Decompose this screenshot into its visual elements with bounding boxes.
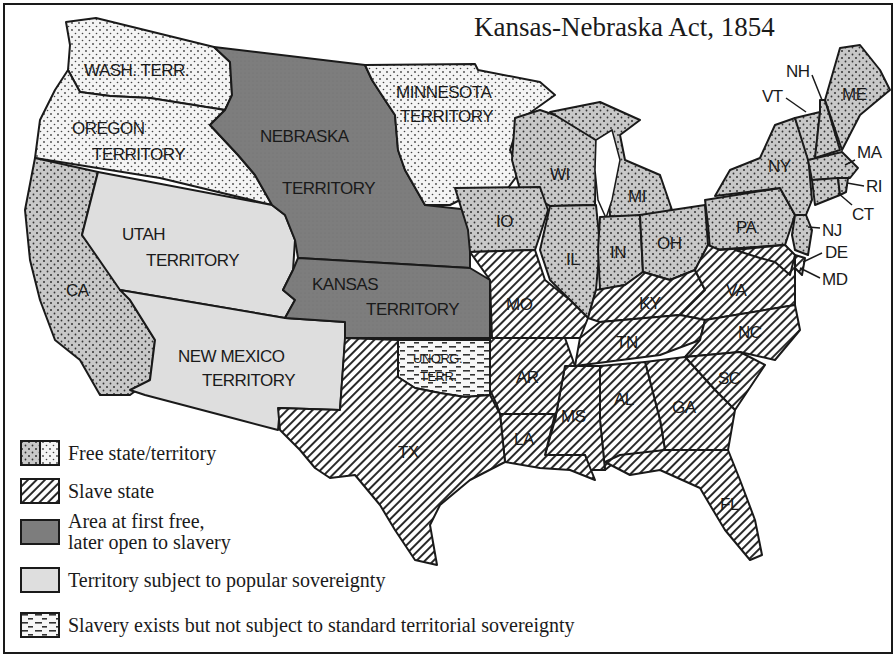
- label-sc: SC: [718, 369, 741, 388]
- label-kansas-line2: TERRITORY: [366, 300, 459, 319]
- label-oregon-line2: TERRITORY: [92, 145, 185, 164]
- map-canvas: WASH. TERR. OREGON TERRITORY NEBRASKA TE…: [0, 0, 896, 657]
- label-oregon-line1: OREGON: [72, 119, 145, 138]
- label-utah-line2: TERRITORY: [146, 251, 239, 270]
- label-new-mexico-line2: TERRITORY: [202, 371, 295, 390]
- label-utah-line1: UTAH: [122, 225, 165, 244]
- label-fl: FL: [720, 495, 739, 514]
- region-delaware: [795, 255, 805, 275]
- legend-label-first-free-line1: Area at first free,: [68, 511, 231, 532]
- popular-sovereignty-swatch-icon: [20, 567, 60, 593]
- label-ma: MA: [857, 143, 883, 162]
- leader-nj: [808, 227, 820, 228]
- label-io: IO: [496, 212, 513, 231]
- legend-label-popular: Territory subject to popular sovereignty: [68, 570, 385, 591]
- label-nh: NH: [786, 62, 810, 81]
- label-ms: MS: [561, 407, 586, 426]
- label-de: DE: [825, 243, 848, 262]
- label-ct: CT: [852, 205, 874, 224]
- label-kansas-line1: KANSAS: [312, 275, 378, 294]
- label-nebraska-line2: TERRITORY: [282, 179, 375, 198]
- label-ny: NY: [768, 157, 791, 176]
- label-il: IL: [566, 250, 579, 269]
- region-connecticut: [812, 178, 840, 205]
- legend-item-free: Free state/territory: [20, 440, 216, 466]
- label-la: LA: [514, 430, 535, 449]
- label-minnesota-line1: MINNESOTA: [396, 83, 492, 102]
- label-va: VA: [726, 281, 748, 300]
- region-rhode-island: [838, 178, 848, 195]
- label-unorg-line2: TERR.: [420, 369, 457, 384]
- label-ky: KY: [639, 294, 661, 313]
- legend-item-first-free: Area at first free, later open to slaver…: [20, 511, 231, 553]
- label-ri: RI: [866, 177, 882, 196]
- label-oh: OH: [657, 234, 682, 253]
- legend-item-popular: Territory subject to popular sovereignty: [20, 567, 385, 593]
- label-ar: AR: [516, 368, 539, 387]
- label-ca: CA: [66, 281, 90, 300]
- label-minnesota-line2: TERRITORY: [400, 107, 493, 126]
- legend-label-free: Free state/territory: [68, 443, 216, 464]
- leader-ct: [838, 193, 852, 205]
- label-mi: MI: [628, 187, 646, 206]
- label-tx: TX: [398, 443, 419, 462]
- label-wi: WI: [550, 165, 570, 184]
- leader-ri: [847, 183, 864, 186]
- label-nj: NJ: [822, 221, 842, 240]
- map-title: Kansas-Nebraska Act, 1854: [474, 12, 775, 43]
- label-nc: NC: [738, 323, 762, 342]
- label-wash-terr: WASH. TERR.: [84, 61, 189, 80]
- free-state-swatch-icon: [20, 440, 60, 466]
- first-free-swatch-icon: [20, 519, 60, 545]
- label-pa: PA: [736, 218, 758, 237]
- label-ga: GA: [672, 398, 697, 417]
- label-mo: MO: [506, 295, 533, 314]
- legend-label-first-free-line2: later open to slavery: [68, 532, 231, 553]
- leader-nh: [812, 75, 822, 100]
- label-nebraska-line1: NEBRASKA: [260, 127, 350, 146]
- label-vt: VT: [762, 87, 783, 106]
- label-new-mexico-line1: NEW MEXICO: [178, 347, 285, 366]
- slave-state-swatch-icon: [20, 478, 60, 504]
- label-al: AL: [614, 390, 634, 409]
- leader-vt: [786, 98, 806, 112]
- legend-label-slave: Slave state: [68, 481, 154, 502]
- label-me: ME: [842, 85, 867, 104]
- legend-label-unorganized: Slavery exists but not subject to standa…: [68, 615, 575, 636]
- label-tn: TN: [616, 333, 638, 352]
- label-md: MD: [822, 270, 848, 289]
- legend-item-slave: Slave state: [20, 478, 154, 504]
- unorganized-swatch-icon: [20, 612, 60, 638]
- label-in: IN: [610, 243, 626, 262]
- region-new-jersey: [792, 215, 812, 255]
- legend-item-unorganized: Slavery exists but not subject to standa…: [20, 612, 575, 638]
- label-unorg-line1: UNORG.: [413, 351, 462, 366]
